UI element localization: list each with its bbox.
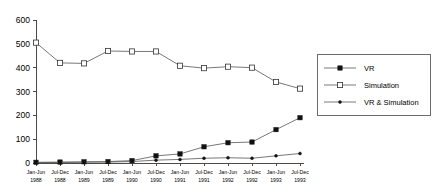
- x-tick-label-year: 1993: [270, 177, 282, 183]
- data-point-marker-2: [107, 161, 110, 164]
- data-point-marker-1: [201, 66, 206, 71]
- data-point-marker-2: [203, 157, 206, 160]
- legend-item-simulation[interactable]: Simulation: [324, 81, 399, 90]
- data-point-marker-0: [226, 141, 230, 145]
- data-point-marker-0: [274, 127, 278, 131]
- data-point-marker-1: [249, 65, 254, 70]
- data-point-marker-0: [154, 154, 158, 158]
- x-tick-label-period: Jan-Jun: [123, 169, 142, 175]
- series-vr-simulation: [35, 152, 302, 164]
- x-tick-label-period: Jan-Jun: [219, 169, 238, 175]
- x-tick-label-year: 1992: [222, 177, 234, 183]
- legend-label: VR & Simulation: [364, 98, 419, 107]
- chart-legend: VRSimulationVR & Simulation: [317, 54, 430, 115]
- data-point-marker-legend: [337, 82, 342, 87]
- y-tick-label: 500: [16, 39, 30, 49]
- data-point-marker-2: [155, 159, 158, 162]
- data-point-marker-legend: [338, 66, 342, 70]
- data-point-marker-2: [275, 154, 278, 157]
- legend-item-vr-simulation[interactable]: VR & Simulation: [324, 98, 419, 107]
- data-point-marker-1: [81, 61, 86, 66]
- series-line: [36, 118, 300, 163]
- series-simulation: [33, 40, 302, 91]
- series-line: [36, 43, 300, 89]
- x-tick-label-year: 1992: [246, 177, 258, 183]
- data-point-marker-1: [105, 48, 110, 53]
- legend-item-vr[interactable]: VR: [324, 64, 375, 73]
- data-point-marker-1: [33, 40, 38, 45]
- data-point-marker-1: [129, 49, 134, 54]
- series-layer: [33, 40, 302, 164]
- data-point-marker-2: [35, 161, 38, 164]
- data-point-marker-1: [273, 79, 278, 84]
- chart-container: 0100200300400500600 Jan-Jun1988Jul-Dec19…: [0, 0, 436, 193]
- x-tick-label-year: 1990: [150, 177, 162, 183]
- data-point-marker-0: [298, 116, 302, 120]
- data-point-marker-2: [131, 160, 134, 163]
- y-tick-label: 600: [16, 15, 30, 25]
- x-tick-label-year: 1989: [102, 177, 114, 183]
- data-point-marker-2: [227, 156, 230, 159]
- x-tick-label-year: 1988: [54, 177, 66, 183]
- data-point-marker-2: [59, 161, 62, 164]
- x-tick-label-period: Jan-Jun: [27, 169, 46, 175]
- x-tick-label-period: Jul-Dec: [147, 169, 165, 175]
- x-tick-label-year: 1990: [126, 177, 138, 183]
- data-point-marker-1: [177, 63, 182, 68]
- data-point-marker-0: [250, 140, 254, 144]
- x-axis: Jan-Jun1988Jul-Dec1988Jan-Jun1989Jul-Dec…: [27, 163, 309, 183]
- data-point-marker-2: [251, 157, 254, 160]
- legend-label: Simulation: [364, 81, 399, 90]
- line-chart: 0100200300400500600 Jan-Jun1988Jul-Dec19…: [0, 0, 436, 193]
- data-point-marker-2: [83, 161, 86, 164]
- x-tick-label-period: Jan-Jun: [171, 169, 190, 175]
- x-tick-label-period: Jan-Jun: [267, 169, 286, 175]
- x-tick-label-year: 1991: [174, 177, 186, 183]
- x-tick-label-year: 1988: [30, 177, 42, 183]
- y-tick-label: 200: [16, 110, 30, 120]
- data-point-marker-legend: [339, 101, 342, 104]
- y-tick-label: 100: [16, 134, 30, 144]
- data-point-marker-2: [299, 152, 302, 155]
- data-point-marker-0: [178, 152, 182, 156]
- data-point-marker-1: [225, 64, 230, 69]
- y-axis: 0100200300400500600: [16, 15, 37, 168]
- data-point-marker-0: [202, 145, 206, 149]
- legend-label: VR: [364, 64, 375, 73]
- data-point-marker-1: [153, 49, 158, 54]
- x-tick-label-period: Jan-Jun: [75, 169, 94, 175]
- x-tick-label-period: Jul-Dec: [243, 169, 261, 175]
- data-point-marker-1: [297, 86, 302, 91]
- x-tick-label-year: 1989: [78, 177, 90, 183]
- data-point-marker-2: [179, 158, 182, 161]
- y-tick-label: 300: [16, 87, 30, 97]
- x-tick-label-period: Jul-Dec: [195, 169, 213, 175]
- x-tick-label-year: 1993: [294, 177, 306, 183]
- x-tick-label-period: Jul-Dec: [291, 169, 309, 175]
- x-tick-label-period: Jul-Dec: [99, 169, 117, 175]
- x-tick-label-year: 1991: [198, 177, 210, 183]
- x-tick-label-period: Jul-Dec: [51, 169, 69, 175]
- y-tick-label: 0: [25, 158, 30, 168]
- data-point-marker-1: [57, 60, 62, 65]
- y-tick-label: 400: [16, 63, 30, 73]
